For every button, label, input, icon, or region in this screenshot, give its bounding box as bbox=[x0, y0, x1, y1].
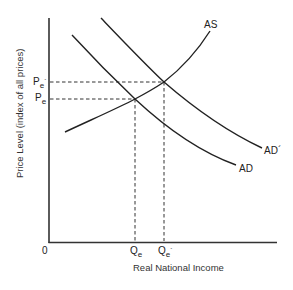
qe-label: Qe bbox=[130, 245, 143, 259]
y-axis-title: Price Level (index of all prices) bbox=[14, 49, 25, 178]
origin-label: 0 bbox=[42, 245, 48, 256]
as-label: AS bbox=[204, 19, 218, 30]
pe-prime-mark: ´ bbox=[44, 77, 47, 86]
pe-prime-label: Pe´ bbox=[33, 76, 47, 90]
x-axis-title: Real National Income bbox=[133, 262, 224, 273]
qe-prime-label: Qe´ bbox=[158, 245, 173, 259]
pe-label: Pe bbox=[35, 92, 47, 106]
pe-sub: e bbox=[42, 97, 47, 106]
ad-label: AD bbox=[239, 163, 253, 174]
as-ad-diagram: AS AD AD´ Pe´ Pe 0 Qe Qe´ Real National … bbox=[0, 0, 293, 290]
qe-sub: e bbox=[138, 250, 143, 259]
ad-prime-curve bbox=[101, 18, 262, 148]
qe-prime-mark: ´ bbox=[170, 246, 173, 255]
ad-prime-label: AD´ bbox=[264, 145, 281, 156]
ad-curve bbox=[72, 35, 236, 165]
